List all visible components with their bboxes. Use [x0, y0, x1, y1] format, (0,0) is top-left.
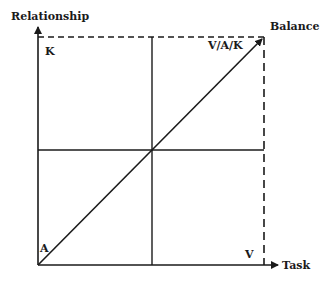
y-axis-label: Relationship [11, 11, 89, 22]
corner-label-bottom-left: A [40, 243, 49, 254]
corner-label-bottom-right: V [245, 249, 254, 260]
corner-label-top-right: V/A/K [208, 40, 243, 51]
balance-diagonal-arrow [38, 39, 262, 265]
balance-label: Balance [270, 21, 319, 32]
balance-diagram: Relationship Task Balance K V/A/K A V [0, 0, 324, 283]
corner-label-top-left: K [45, 46, 55, 57]
x-axis-label: Task [282, 260, 310, 271]
diagram-lines [0, 0, 324, 283]
